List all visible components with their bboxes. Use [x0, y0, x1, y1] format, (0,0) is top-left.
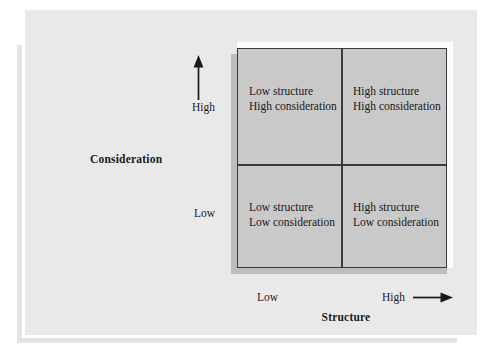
- consideration-low-label: Low: [145, 207, 215, 219]
- matrix-bevel-shadow-bottom: [231, 268, 447, 274]
- arrow-up-icon: [189, 55, 208, 100]
- quadrant-bottom-right-label: High structureLow consideration: [353, 200, 439, 229]
- panel-shadow-left: [17, 45, 22, 342]
- matrix-divider-vertical: [341, 48, 343, 268]
- consideration-high-label: High: [145, 101, 215, 113]
- structure-axis-title: Structure: [291, 311, 401, 323]
- figure-panel: Low structureHigh consideration High str…: [25, 10, 477, 335]
- quadrant-top-right-label: High structureHigh consideration: [353, 84, 441, 113]
- quadrant-bottom-left-label: Low structureLow consideration: [249, 200, 335, 229]
- structure-high-label: High: [382, 291, 405, 303]
- matrix-bevel-highlight-right: [447, 42, 453, 268]
- quadrant-top-left-label: Low structureHigh consideration: [249, 84, 337, 113]
- consideration-axis-title: Consideration: [90, 153, 162, 165]
- matrix-divider-horizontal: [237, 164, 447, 166]
- arrow-right-icon: [413, 289, 453, 306]
- panel-shadow-bottom: [17, 338, 457, 343]
- structure-low-label: Low: [257, 291, 278, 303]
